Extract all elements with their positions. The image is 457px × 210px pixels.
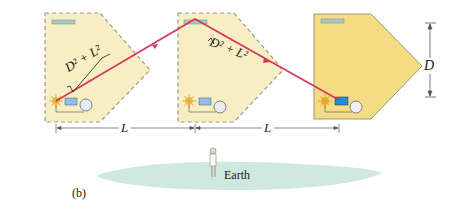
panel-label: (b) [72, 186, 86, 201]
height-label-d: D [424, 58, 434, 74]
clock-icon [214, 101, 226, 113]
spacecraft-middle [178, 13, 283, 122]
mirror-icon [52, 20, 75, 24]
clock-icon [80, 99, 92, 111]
detector-icon [199, 98, 211, 105]
spacecraft-right [314, 14, 422, 119]
spacecraft-left [45, 13, 150, 122]
earth-label: Earth [224, 168, 250, 183]
detector-icon [65, 98, 77, 105]
dimension-l [56, 124, 339, 133]
clock-icon [350, 101, 362, 113]
distance-label-l-right: L [264, 120, 271, 136]
distance-label-l-left: L [121, 120, 128, 136]
mirror-icon [321, 19, 344, 23]
